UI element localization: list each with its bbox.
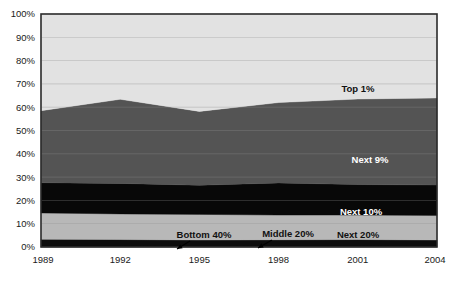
x-tick-label-1992: 1992 — [110, 254, 131, 265]
y-tick-label-70pct: 70% — [16, 78, 36, 89]
x-tick-label-2004: 2004 — [424, 254, 445, 265]
y-tick-label-0pct: 0% — [21, 241, 35, 252]
series-label-top-1: Top 1% — [341, 83, 375, 94]
y-tick-label-80pct: 80% — [16, 55, 36, 66]
y-tick-label-30pct: 30% — [16, 172, 36, 183]
x-tick-label-1998: 1998 — [268, 254, 289, 265]
series-label-next-20: Next 20% — [337, 229, 380, 240]
y-tick-label-20pct: 20% — [16, 195, 36, 206]
y-tick-label-100pct: 100% — [11, 8, 36, 19]
area-band-top-1 — [41, 14, 437, 111]
x-tick-label-1995: 1995 — [189, 254, 210, 265]
callout-label-bottom-40: Bottom 40% — [177, 229, 232, 240]
stacked-area-chart: 0%10%20%30%40%50%60%70%80%90%100% 198919… — [0, 0, 452, 287]
y-tick-label-90pct: 90% — [16, 32, 36, 43]
y-tick-label-10pct: 10% — [16, 218, 36, 229]
chart-container: 0%10%20%30%40%50%60%70%80%90%100% 198919… — [0, 0, 452, 287]
y-tick-label-60pct: 60% — [16, 102, 36, 113]
area-band-next-9 — [41, 98, 437, 185]
x-tick-label-2001: 2001 — [347, 254, 368, 265]
y-tick-label-50pct: 50% — [16, 125, 36, 136]
y-tick-label-40pct: 40% — [16, 148, 36, 159]
series-label-next-9: Next 9% — [352, 154, 390, 165]
area-band-middle-20 — [41, 239, 437, 246]
x-tick-label-1989: 1989 — [32, 254, 53, 265]
callout-label-middle-20: Middle 20% — [262, 228, 314, 239]
series-label-next-10: Next 10% — [340, 206, 383, 217]
